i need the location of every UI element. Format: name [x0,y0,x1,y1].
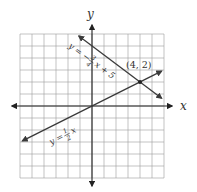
intersection-point [138,80,142,84]
y-axis-label: y [86,7,94,21]
graph: y x (4, 2) y = − 3 4 x + 5 y = 1 2 x [0,0,197,192]
line2-denominator: 2 [64,134,72,143]
line2-lhs: y = [46,131,64,147]
x-axis-label: x [180,99,187,113]
point-label: (4, 2) [126,59,152,70]
